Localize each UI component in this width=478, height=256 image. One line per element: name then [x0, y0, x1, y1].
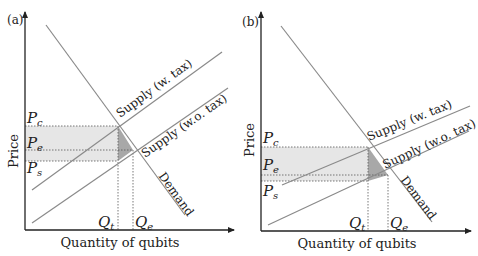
price-label-pc: Pc: [262, 129, 279, 148]
y-axis-label: Price: [6, 134, 21, 168]
quantity-label-qt: Qt: [349, 214, 366, 233]
y-axis-label: Price: [242, 123, 257, 157]
panel-a: (a) Price Quantity of qubits Pc Pe Ps Qt…: [6, 12, 234, 250]
quantity-label-qt: Qt: [98, 213, 115, 232]
demand-label: Demand: [156, 170, 197, 219]
quantity-label-qe: Qe: [135, 213, 153, 232]
demand-label: Demand: [398, 173, 440, 222]
panel-b: (b) Price Quantity of qubits Pc Pe Ps Qt…: [242, 12, 478, 251]
panel-label: (a): [7, 13, 24, 27]
deadweight-loss-triangle: [118, 126, 133, 161]
panel-label: (b): [242, 15, 259, 29]
supply-with-tax-label: Supply (w. tax): [114, 56, 195, 120]
price-label-ps: Ps: [262, 182, 278, 201]
tax-incidence-diagrams: (a) Price Quantity of qubits Pc Pe Ps Qt…: [0, 0, 478, 256]
quantity-label-qe: Qe: [390, 214, 408, 233]
price-label-pc: Pc: [26, 109, 43, 128]
x-axis-label: Quantity of qubits: [60, 235, 179, 250]
supply-without-tax-label: Supply (w.o. tax): [139, 91, 230, 160]
price-label-ps: Ps: [26, 159, 42, 178]
x-axis-label: Quantity of qubits: [297, 236, 416, 251]
